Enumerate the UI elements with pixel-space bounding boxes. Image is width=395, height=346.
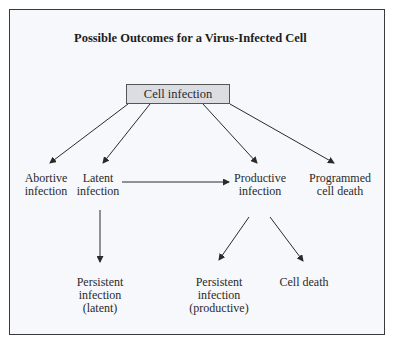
arrow-productive-celldeath [270, 217, 303, 261]
node-persistent-latent: Persistent infection (latent) [70, 276, 130, 315]
node-programmed-cell-death: Programmed cell death [308, 172, 372, 198]
arrow-root-programmed [230, 104, 334, 163]
node-productive-infection: Productive infection [230, 172, 290, 198]
arrow-root-productive [203, 104, 257, 163]
node-abortive-infection: Abortive infection [24, 172, 68, 198]
arrow-root-latent [103, 104, 150, 163]
node-cell-death: Cell death [276, 276, 332, 289]
arrow-productive-persistent [219, 217, 249, 260]
arrow-root-abortive [50, 104, 128, 163]
node-latent-infection: Latent infection [76, 172, 120, 198]
node-cell-infection: Cell infection [126, 84, 230, 104]
node-persistent-productive: Persistent infection (productive) [186, 276, 252, 315]
